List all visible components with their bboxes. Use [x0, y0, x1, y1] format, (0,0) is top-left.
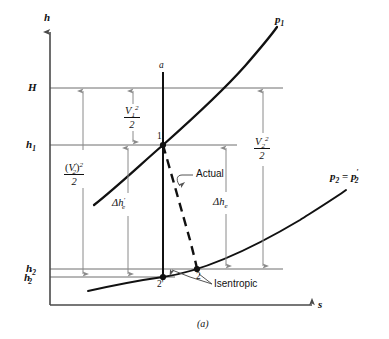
x-axis-label: s	[318, 299, 322, 310]
energy-term-V1-sq-over-2: V12 2	[122, 104, 142, 131]
actual-process-line	[163, 145, 197, 269]
curve-label-p2: p2 = p′2	[330, 171, 358, 182]
point-label-1: 1	[157, 132, 162, 142]
label-delta-h-e: Δhe	[211, 196, 230, 209]
energy-term-V2-sq-over-2: V22 2	[252, 135, 272, 162]
line-1-to-2-dashed	[163, 145, 197, 269]
state-point-markers	[160, 142, 200, 280]
point-label-2: 2	[196, 272, 201, 282]
annotation-isentropic: Isentropic	[214, 279, 257, 289]
leader-isentropic-to-line	[172, 270, 212, 284]
label-delta-h-e-prime: Δh′e	[110, 197, 127, 210]
energy-term-V2prime-sq-over-2: (V′2)2 2	[62, 161, 86, 188]
y-tick-label-h2-prime: h′2	[24, 272, 32, 283]
y-axis-label: h	[44, 12, 50, 23]
leader-lines	[172, 175, 212, 284]
figure-enthalpy-entropy-diagram: h s H h1 h2 h′2 a 1 2 2' p1 p2 = p′2 Act…	[0, 0, 389, 339]
point-label-a: a	[159, 61, 164, 71]
marker-point-1	[160, 142, 166, 148]
axes	[50, 32, 312, 305]
y-tick-label-h1: h1	[26, 139, 36, 150]
y-tick-label-H: H	[28, 82, 37, 93]
leader-actual	[177, 175, 193, 186]
point-label-2-prime: 2'	[157, 280, 163, 290]
figure-caption: (a)	[197, 319, 209, 329]
curve-label-p1: p1	[275, 14, 284, 25]
pressure-curves	[88, 27, 346, 291]
annotation-actual: Actual	[196, 169, 224, 179]
